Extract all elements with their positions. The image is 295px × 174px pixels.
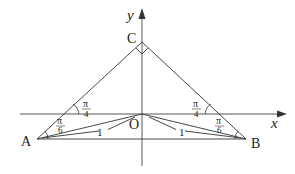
angle-label-right-lower: π 6 xyxy=(215,115,224,135)
svg-text:π: π xyxy=(83,98,88,109)
svg-text:4: 4 xyxy=(84,109,89,119)
x-axis-label: x xyxy=(270,115,278,131)
segment-label-ob: 1 xyxy=(179,126,185,138)
svg-text:π: π xyxy=(193,98,198,109)
segment-label-ao: 1 xyxy=(97,126,103,138)
triangle-acb xyxy=(37,42,246,139)
y-axis-arrow-icon xyxy=(139,8,146,19)
svg-text:4: 4 xyxy=(194,109,199,119)
point-label-b: B xyxy=(251,136,260,151)
x-axis-arrow-icon xyxy=(277,111,287,118)
point-label-o: O xyxy=(129,117,139,132)
y-axis-label: y xyxy=(125,7,134,23)
segments-ao-ob xyxy=(37,114,246,139)
point-label-a: A xyxy=(21,134,32,149)
angle-label-right-upper: π 4 xyxy=(192,98,201,119)
angle-label-left-lower: π 6 xyxy=(56,115,65,135)
svg-text:6: 6 xyxy=(58,125,63,135)
point-label-c: C xyxy=(127,31,136,46)
angle-label-left-upper: π 4 xyxy=(82,98,91,119)
svg-text:6: 6 xyxy=(217,125,222,135)
geometry-diagram: x y π 4 π 6 π xyxy=(0,0,295,174)
